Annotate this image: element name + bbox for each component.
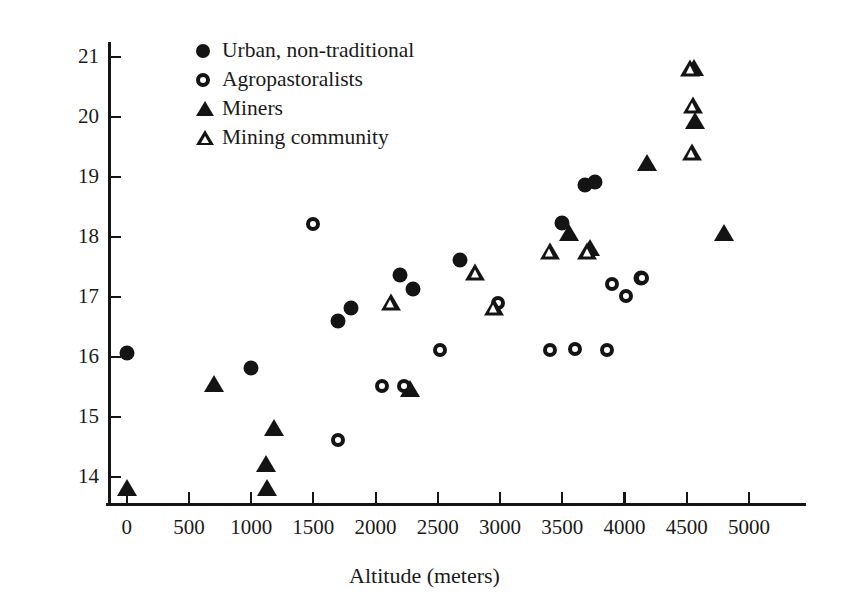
open-circle-marker bbox=[306, 217, 320, 231]
y-tick-mark bbox=[110, 56, 121, 58]
x-tick-label: 1000 bbox=[230, 517, 272, 538]
x-tick-mark bbox=[499, 492, 501, 503]
x-tick-mark bbox=[561, 492, 563, 503]
open-circle-marker bbox=[605, 277, 619, 291]
open-circle-marker bbox=[568, 342, 582, 356]
open-circle-marker bbox=[433, 343, 447, 357]
x-tick-label: 3000 bbox=[479, 517, 521, 538]
open-circle-marker bbox=[196, 73, 210, 87]
legend-item-label: Mining community bbox=[222, 127, 389, 149]
filled-triangle-marker bbox=[685, 112, 705, 129]
y-tick-mark bbox=[110, 116, 121, 118]
data-point bbox=[256, 456, 276, 472]
scatter-plot-figure: 1415161718192021 05001000150020002500300… bbox=[0, 0, 849, 607]
open-circle-marker bbox=[331, 433, 345, 447]
x-tick-label: 0 bbox=[121, 517, 132, 538]
data-point bbox=[244, 361, 259, 376]
y-tick-mark bbox=[110, 476, 121, 478]
data-point bbox=[637, 155, 657, 171]
y-tick-label: 16 bbox=[78, 346, 99, 367]
x-axis-title: Altitude (meters) bbox=[0, 563, 849, 589]
open-triangle-marker bbox=[465, 264, 485, 281]
open-triangle-marker bbox=[682, 144, 702, 161]
open-triangle-marker bbox=[683, 97, 703, 114]
data-point bbox=[331, 314, 346, 329]
filled-triangle-marker bbox=[196, 101, 214, 116]
data-point bbox=[605, 277, 619, 291]
x-tick-label: 4500 bbox=[666, 517, 708, 538]
filled-triangle-marker bbox=[264, 419, 284, 436]
data-point bbox=[397, 379, 411, 393]
legend-marker-icon bbox=[196, 128, 222, 148]
filled-circle-marker bbox=[587, 175, 602, 190]
filled-triangle-marker bbox=[256, 455, 276, 472]
filled-circle-marker bbox=[196, 44, 210, 58]
data-point bbox=[331, 433, 345, 447]
x-tick-mark bbox=[312, 492, 314, 503]
data-point bbox=[119, 346, 134, 361]
x-tick-mark bbox=[250, 492, 252, 503]
open-triangle-marker bbox=[484, 298, 504, 315]
x-tick-mark bbox=[375, 492, 377, 503]
filled-triangle-marker bbox=[637, 154, 657, 171]
data-point bbox=[465, 264, 485, 281]
x-tick-label: 3500 bbox=[541, 517, 583, 538]
data-point bbox=[375, 379, 389, 393]
data-point bbox=[559, 225, 579, 241]
filled-circle-marker bbox=[343, 301, 358, 316]
legend: Urban, non-traditionalAgropastoralistsMi… bbox=[196, 36, 496, 152]
legend-item-label: Miners bbox=[222, 98, 283, 120]
y-tick-mark bbox=[110, 176, 121, 178]
y-tick-mark bbox=[110, 416, 121, 418]
data-point bbox=[405, 281, 420, 296]
data-point bbox=[343, 301, 358, 316]
open-circle-marker bbox=[397, 379, 411, 393]
data-point bbox=[543, 343, 557, 357]
data-point bbox=[619, 289, 633, 303]
x-tick-mark bbox=[126, 492, 128, 503]
x-tick-label: 4000 bbox=[604, 517, 646, 538]
data-point bbox=[204, 376, 224, 392]
data-point bbox=[714, 225, 734, 241]
open-circle-marker bbox=[375, 379, 389, 393]
data-point bbox=[680, 60, 700, 77]
open-circle-marker bbox=[635, 271, 649, 285]
data-point bbox=[306, 217, 320, 231]
data-point bbox=[587, 175, 602, 190]
open-circle-marker bbox=[543, 343, 557, 357]
data-point bbox=[682, 144, 702, 161]
data-point bbox=[600, 343, 614, 357]
open-triangle-marker bbox=[680, 60, 700, 77]
data-point bbox=[685, 113, 705, 129]
open-circle-marker bbox=[619, 289, 633, 303]
filled-circle-marker bbox=[393, 268, 408, 283]
filled-triangle-marker bbox=[714, 224, 734, 241]
data-point bbox=[568, 342, 582, 356]
legend-item-open-triangle: Mining community bbox=[196, 123, 496, 152]
data-point bbox=[257, 480, 277, 496]
y-tick-label: 18 bbox=[78, 226, 99, 247]
x-tick-mark bbox=[686, 492, 688, 503]
y-tick-label: 14 bbox=[78, 466, 99, 487]
legend-item-filled-circle: Urban, non-traditional bbox=[196, 36, 496, 65]
x-tick-mark bbox=[437, 492, 439, 503]
legend-item-open-circle: Agropastoralists bbox=[196, 65, 496, 94]
open-triangle-marker bbox=[381, 294, 401, 311]
x-tick-mark bbox=[623, 492, 625, 503]
y-tick-label: 19 bbox=[78, 166, 99, 187]
x-tick-label: 1500 bbox=[292, 517, 334, 538]
data-point bbox=[264, 420, 284, 436]
legend-marker-icon bbox=[196, 41, 222, 61]
data-point bbox=[484, 298, 504, 315]
data-point bbox=[635, 271, 649, 285]
data-point bbox=[683, 97, 703, 114]
y-tick-label: 17 bbox=[78, 286, 99, 307]
x-tick-mark bbox=[188, 492, 190, 503]
open-triangle-marker bbox=[540, 243, 560, 260]
filled-circle-marker bbox=[119, 346, 134, 361]
y-tick-mark bbox=[110, 296, 121, 298]
y-tick-label: 20 bbox=[78, 106, 99, 127]
legend-item-label: Agropastoralists bbox=[222, 69, 363, 91]
x-tick-label: 2000 bbox=[355, 517, 397, 538]
x-tick-label: 500 bbox=[173, 517, 205, 538]
